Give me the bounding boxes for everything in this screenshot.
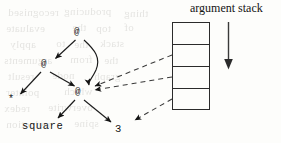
edge-left-to-times xyxy=(21,72,42,94)
stack-pointer-edges xyxy=(95,55,172,120)
edge-root-to-left xyxy=(56,40,76,59)
edge-left-to-mid xyxy=(50,72,75,86)
edge-mid-to-three xyxy=(84,100,111,122)
tree-node-ap-root: @ xyxy=(74,28,79,37)
figure-canvas: recognisedproducingthingevaluatethetopof… xyxy=(0,0,281,143)
argument-stack-box xyxy=(173,23,210,110)
tree-leaf-three: 3 xyxy=(115,124,121,135)
stack-pointer-cell-3 xyxy=(135,99,172,120)
tree-node-ap-mid: @ xyxy=(75,88,80,97)
stack-growth-arrow xyxy=(224,22,233,70)
edge-mid-to-square xyxy=(58,100,75,118)
argument-stack-title: argument stack xyxy=(190,2,263,14)
tree-node-ap-left: @ xyxy=(41,60,46,69)
tree-leaf-square: square xyxy=(22,121,63,132)
stack-pointer-cell-2 xyxy=(95,77,172,90)
tree-edges xyxy=(21,40,112,122)
stack-pointer-cell-1 xyxy=(95,55,172,86)
edge-root-to-mid-curved xyxy=(84,40,98,85)
tree-leaf-times: * xyxy=(8,95,14,105)
